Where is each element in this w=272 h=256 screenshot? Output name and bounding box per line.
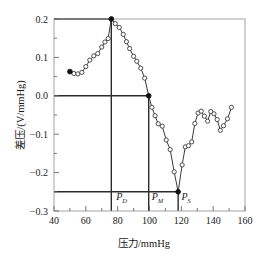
data-point-marker xyxy=(135,59,139,63)
data-point-marker xyxy=(172,170,176,174)
pm-label-subscript: M xyxy=(157,197,164,204)
data-point-marker xyxy=(160,124,164,128)
data-point-marker xyxy=(84,65,88,69)
x-tick-label: 40 xyxy=(49,215,59,226)
data-point-marker xyxy=(80,70,84,74)
data-point-marker xyxy=(143,76,147,80)
data-point-marker xyxy=(96,51,100,55)
x-tick-label: 100 xyxy=(142,215,157,226)
data-point-marker xyxy=(206,119,210,123)
data-point-marker xyxy=(186,144,190,148)
y-tick-label: −0.3 xyxy=(30,206,48,217)
pd-label-subscript: D xyxy=(121,197,127,204)
pm-label-base: P xyxy=(151,191,158,202)
data-point-marker xyxy=(156,122,160,126)
x-tick-label: 80 xyxy=(113,215,123,226)
data-point-marker xyxy=(218,128,222,132)
x-tick-label: 120 xyxy=(174,215,189,226)
x-axis-title: 压力/mmHg xyxy=(118,237,171,249)
data-point-marker xyxy=(131,54,135,58)
data-point-marker xyxy=(92,54,96,58)
y-tick-label: 0.0 xyxy=(36,90,49,101)
ps-label-base: P xyxy=(180,191,187,202)
data-point-marker xyxy=(202,114,206,118)
data-point-marker xyxy=(139,66,143,70)
diastolic-peak-marker xyxy=(109,17,114,22)
data-point-marker xyxy=(153,114,157,118)
y-tick-label: 0.2 xyxy=(36,14,49,25)
data-point-marker xyxy=(124,40,128,44)
data-point-marker xyxy=(100,45,104,49)
data-point-marker xyxy=(117,25,121,29)
data-point-marker xyxy=(215,118,219,122)
data-point-marker xyxy=(164,138,168,142)
data-point-marker xyxy=(103,40,107,44)
data-point-marker xyxy=(113,22,117,26)
x-tick-label: 60 xyxy=(81,215,91,226)
start-point-marker xyxy=(68,69,73,74)
data-point-marker xyxy=(212,112,216,116)
data-point-marker xyxy=(121,32,125,36)
data-point-marker xyxy=(150,105,154,109)
data-point-marker xyxy=(229,105,233,109)
chart-figure: 406080100120140160 −0.3−0.2−0.10.00.10.2… xyxy=(0,0,272,256)
data-point-marker xyxy=(106,36,110,40)
y-tick-label: −0.2 xyxy=(30,167,48,178)
data-point-marker xyxy=(128,46,132,50)
data-point-marker xyxy=(225,117,229,121)
data-point-marker xyxy=(88,58,92,62)
data-point-marker xyxy=(190,140,194,144)
pd-label-base: P xyxy=(115,191,122,202)
y-tick-label: 0.1 xyxy=(36,52,49,63)
y-tick-label: −0.1 xyxy=(30,129,48,140)
data-point-marker xyxy=(221,124,225,128)
y-axis-title: 差压/(V/mmHg) xyxy=(14,80,27,150)
x-tick-label: 160 xyxy=(238,215,253,226)
x-tick-label: 140 xyxy=(206,215,221,226)
data-point-marker xyxy=(180,163,184,167)
mean-crossing-marker xyxy=(146,93,151,98)
data-point-marker xyxy=(199,109,203,113)
data-point-marker xyxy=(193,121,197,125)
systolic-min-marker xyxy=(176,189,181,194)
data-point-marker xyxy=(168,147,172,151)
oscillometric-differential-pressure-chart: 406080100120140160 −0.3−0.2−0.10.00.10.2… xyxy=(0,0,272,256)
